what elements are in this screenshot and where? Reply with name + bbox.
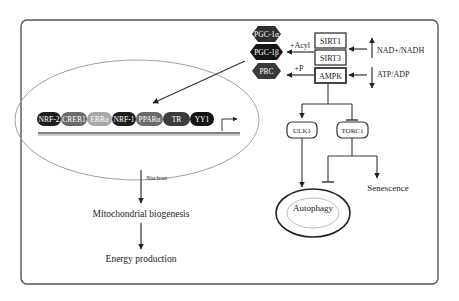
tf-nrf2: NRF-2 [37, 112, 61, 126]
tf-label: CREB1 [62, 115, 86, 124]
phospho-label: +P [295, 64, 305, 73]
sensor-label: AMPK [319, 72, 342, 81]
sensor-label: SIRT1 [320, 37, 341, 46]
tf-label: ERRα [90, 115, 109, 124]
nad-label: NAD+/NADH [377, 46, 424, 55]
mitochondrial-signaling-diagram: NRF-2 CREB1 ERRα NRF-1 PPARα TR YY1 [0, 0, 459, 301]
energy-label: Energy production [106, 254, 177, 264]
acyl-label: +Acyl [290, 41, 311, 50]
tf-label: NRF-1 [114, 115, 135, 124]
atp-label: ATP/ADP [377, 70, 410, 79]
coactivator-label: PGC-1α [254, 30, 279, 39]
tf-label: NRF-2 [39, 115, 60, 124]
coactivator-label: PGC-1β [254, 48, 279, 57]
tf-nrf1: NRF-1 [112, 112, 136, 126]
coactivator-label: PRC [259, 67, 273, 76]
tf-label: PPARα [138, 115, 160, 124]
torc1-label: TORC1 [341, 127, 364, 135]
sensor-ampk: AMPK [315, 68, 346, 83]
tf-label: YY1 [195, 115, 210, 124]
ulk1-node: ULK1 [287, 122, 317, 138]
torc1-node: TORC1 [337, 122, 368, 138]
ulk1-label: ULK1 [293, 127, 311, 135]
outer-frame [21, 20, 438, 284]
tf-erra: ERRα [87, 112, 112, 126]
senescence-label: Senescence [367, 183, 408, 193]
nucleus-label: Nucleus [145, 174, 167, 181]
coactivator-pgc1b: PGC-1β [250, 44, 283, 60]
coactivator-prc: PRC [252, 63, 281, 79]
tf-yy1: YY1 [190, 112, 214, 126]
transcription-factor-row: NRF-2 CREB1 ERRα NRF-1 PPARα TR YY1 [37, 112, 214, 126]
tf-tr: TR [163, 112, 190, 126]
sensor-sirt1: SIRT1 [315, 33, 346, 48]
sensor-label: SIRT3 [320, 54, 341, 63]
tf-label: TR [172, 115, 182, 124]
autophagy-label: Autophagy [293, 203, 333, 213]
coactivator-pgc1a: PGC-1α [252, 26, 281, 42]
biogenesis-label: Mitochondrial biogenesis [93, 209, 190, 219]
tf-creb1: CREB1 [61, 112, 87, 126]
tf-ppara: PPARα [136, 112, 163, 126]
sensor-sirt3: SIRT3 [315, 50, 346, 65]
